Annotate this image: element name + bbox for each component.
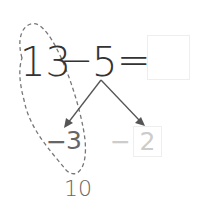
right-split-box[interactable]: 2 (133, 126, 162, 157)
left-split-operator: − (46, 129, 67, 154)
left-split-value: 3 (66, 128, 82, 153)
right-split-operator: − (110, 129, 131, 154)
grouped-result: 10 (64, 178, 92, 200)
diagram-lines (0, 0, 201, 209)
subtrahend: 5 (92, 42, 117, 82)
branch-line-left (68, 80, 101, 123)
minus-operator: − (60, 40, 94, 80)
arrow-head-right (135, 117, 145, 126)
answer-box[interactable] (147, 35, 190, 80)
equals-sign: = (117, 40, 151, 80)
branch-line-right (101, 80, 140, 121)
right-split-value: 2 (134, 129, 161, 154)
